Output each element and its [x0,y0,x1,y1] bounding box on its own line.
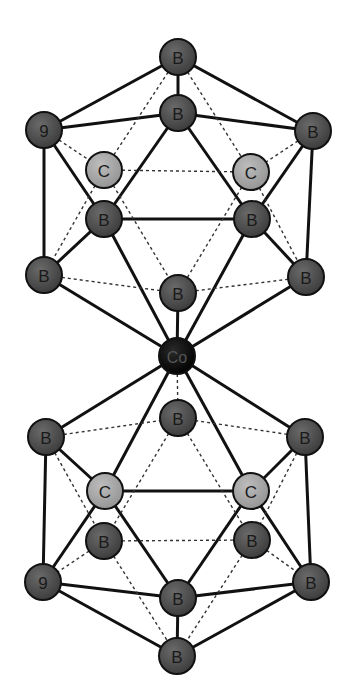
dashed-bond-t7-t8 [178,277,306,293]
dashed-bond-t6-t8 [44,275,178,293]
boron-atom-u4: B [86,523,122,559]
atom-label: B [246,211,257,230]
atom-label: C [245,483,257,502]
atom-label: B [172,105,183,124]
boron-atom-u1: B [160,580,196,616]
atom-label: B [172,410,183,429]
atom-label: C [245,164,257,183]
atom-label: B [172,285,183,304]
boron-atom-u6: B [28,419,64,455]
solid-bond-u3-u0 [177,582,311,656]
solid-bond-u6-u2 [43,437,46,582]
carbon-atom-c2: C [233,154,269,190]
boron-atom-t2: 9 [26,112,62,148]
boron-atom-t6: B [26,257,62,293]
atom-label: B [299,429,310,448]
boron-atom-t1: B [160,95,196,131]
boron-atom-u5: B [234,522,270,558]
boron-atom-t0: B [160,39,196,75]
atom-label: Co [167,349,188,366]
dashed-bond-u6-u8 [46,418,178,437]
atom-label: B [172,590,183,609]
atom-label: B [300,269,311,288]
atom-label: B [246,532,257,551]
dashed-bond-c1-c2 [104,170,251,172]
solid-bond-co-u7 [177,356,305,437]
solid-bond-t0-t2 [44,57,178,130]
solid-bond-u2-u0 [43,582,177,656]
atom-label: B [172,49,183,68]
solid-bond-u2-u1 [43,582,178,598]
solid-bond-u3-u1 [178,582,311,598]
cobalt-bis-dicarbollide-structure: BB9BCCBBBBBCoBBBCCBB9BBB [0,0,359,698]
dashed-bond-u7-u8 [178,418,305,437]
atom-label: B [98,211,109,230]
solid-bond-u7-u3 [305,437,311,582]
boron-atom-u3: B [293,564,329,600]
boron-atom-u7: B [287,419,323,455]
solid-bond-t1-t2 [44,113,178,130]
carbon-atom-c1: C [86,152,122,188]
cobalt-atom-co: Co [159,338,195,374]
carbon-atom-d1: C [87,473,123,509]
solid-bond-t1-t3 [178,113,313,131]
dashed-bond-u4-u5 [104,540,252,541]
boron-atom-u0: B [159,638,195,674]
atom-label: B [171,648,182,667]
atom-label: B [305,574,316,593]
molecule-diagram: BB9BCCBBBBBCoBBBCCBB9BBB [0,0,359,698]
solid-bond-t0-t3 [178,57,313,131]
boron-atom-t7: B [288,259,324,295]
atom-label: C [98,162,110,181]
solid-bond-t3-t7 [306,131,313,277]
atoms-layer: BB9BCCBBBBBCoBBBCCBB9BBB [25,39,331,674]
atom-label: B [40,429,51,448]
boron-atom-u8: B [160,400,196,436]
boron-atom-t3: B [295,113,331,149]
boron-atom-u2: 9 [25,564,61,600]
atom-label: B [38,267,49,286]
carbon-atom-d2: C [233,473,269,509]
atom-label: C [99,483,111,502]
boron-atom-t4: B [86,201,122,237]
solid-bond-co-u6 [46,356,177,437]
atom-label: 9 [38,574,47,593]
boron-atom-t8: B [160,275,196,311]
atom-label: 9 [39,122,48,141]
boron-atom-t5: B [234,201,270,237]
atom-label: B [307,123,318,142]
atom-label: B [98,533,109,552]
